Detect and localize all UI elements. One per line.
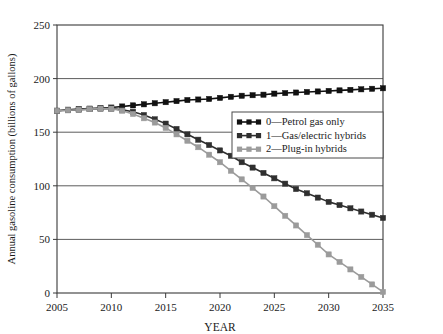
series-2-marker — [272, 204, 277, 209]
series-1-marker — [337, 203, 342, 208]
series-0-marker — [250, 93, 255, 98]
series-2-marker — [130, 111, 135, 116]
series-1-marker — [261, 170, 266, 175]
x-tick-label-2025: 2025 — [263, 301, 286, 313]
legend-label-1: 1—Gas/electric hybrids — [266, 130, 366, 141]
series-2-marker — [359, 274, 364, 279]
x-tickmarks-group — [57, 293, 383, 298]
legend-swatch-marker-1 — [246, 133, 251, 138]
series-1-marker — [272, 176, 277, 181]
series-1-marker — [315, 195, 320, 200]
series-2-marker — [87, 107, 92, 112]
series-0-marker — [141, 102, 146, 107]
series-0-marker — [315, 89, 320, 94]
series-2-marker — [76, 107, 81, 112]
x-tick-label-2015: 2015 — [155, 301, 178, 313]
series-0-marker — [348, 87, 353, 92]
x-tick-label-2030: 2030 — [318, 301, 341, 313]
series-1-marker — [250, 165, 255, 170]
series-2-marker — [228, 168, 233, 173]
x-axis-title: YEAR — [204, 321, 236, 333]
plot-frame — [57, 25, 383, 293]
series-2-marker — [65, 108, 70, 113]
series-0-marker — [370, 86, 375, 91]
series-1-marker — [283, 181, 288, 186]
series-2-marker — [380, 289, 385, 294]
x-tick-label-2010: 2010 — [100, 301, 123, 313]
series-2-marker — [370, 282, 375, 287]
series-2-marker — [54, 108, 59, 113]
series-2-marker — [315, 242, 320, 247]
y-tick-label-0: 0 — [45, 287, 51, 299]
series-0-marker — [283, 90, 288, 95]
series-2-marker — [120, 108, 125, 113]
series-0-marker — [261, 92, 266, 97]
legend-swatch-marker-0 — [237, 119, 242, 124]
series-1-marker — [348, 206, 353, 211]
chart-legend: 0—Petrol gas only1—Gas/electric hybrids2… — [232, 112, 383, 158]
gasoline-consumption-line-chart: 050100150200250 200520102015202020252030… — [0, 0, 443, 334]
x-tick-labels-group: 2005201020152020202520302035 — [46, 301, 395, 313]
y-tick-label-100: 100 — [34, 180, 51, 192]
series-2-marker — [250, 185, 255, 190]
series-1-marker — [239, 160, 244, 165]
series-0-marker — [196, 97, 201, 102]
series-1-marker — [370, 212, 375, 217]
series-0-marker — [228, 94, 233, 99]
series-0-marker — [326, 88, 331, 93]
series-0-marker — [217, 95, 222, 100]
series-2-marker — [152, 120, 157, 125]
series-2-marker — [337, 259, 342, 264]
series-1-marker — [196, 137, 201, 142]
series-2-marker — [261, 194, 266, 199]
gridlines-group — [57, 79, 383, 240]
series-1-marker — [174, 126, 179, 131]
y-tick-label-200: 200 — [34, 73, 51, 85]
legend-swatch-marker-0 — [246, 119, 251, 124]
y-tickmarks-group — [53, 25, 57, 293]
series-2-marker — [326, 252, 331, 257]
y-axis-title: Annual gasoline consumption (billions of… — [6, 53, 18, 264]
series-0-marker — [337, 88, 342, 93]
series-2-marker — [283, 213, 288, 218]
series-2-marker — [207, 152, 212, 157]
series-0-marker — [130, 103, 135, 108]
legend-swatch-marker-2 — [256, 147, 261, 152]
y-tick-label-250: 250 — [34, 19, 51, 31]
series-0-marker — [207, 96, 212, 101]
legend-swatch-marker-1 — [237, 133, 242, 138]
y-tick-label-50: 50 — [39, 233, 51, 245]
y-tick-label-150: 150 — [34, 126, 51, 138]
legend-swatch-marker-0 — [256, 119, 261, 124]
series-2-marker — [163, 125, 168, 130]
chart-container: 050100150200250 200520102015202020252030… — [0, 0, 443, 334]
x-tick-label-2020: 2020 — [209, 301, 232, 313]
series-1-marker — [207, 142, 212, 147]
series-2-marker — [196, 145, 201, 150]
series-0-marker — [152, 101, 157, 106]
legend-swatch-marker-2 — [246, 147, 251, 152]
x-tick-label-2035: 2035 — [372, 301, 395, 313]
series-1-marker — [380, 215, 385, 220]
series-1-marker — [326, 199, 331, 204]
series-0-marker — [272, 91, 277, 96]
legend-swatch-marker-2 — [237, 147, 242, 152]
series-2-marker — [239, 177, 244, 182]
series-0-marker — [359, 87, 364, 92]
series-2-marker — [304, 233, 309, 238]
legend-swatch-marker-1 — [256, 133, 261, 138]
series-0-marker — [163, 100, 168, 105]
series-2-marker — [293, 223, 298, 228]
series-1-marker — [185, 132, 190, 137]
series-0-marker — [293, 90, 298, 95]
series-2-marker — [174, 132, 179, 137]
series-1-marker — [217, 148, 222, 153]
y-tick-labels-group: 050100150200250 — [34, 19, 51, 299]
series-2-marker — [348, 267, 353, 272]
series-0-marker — [380, 86, 385, 91]
series-2-marker — [141, 116, 146, 121]
legend-label-2: 2—Plug-in hybrids — [266, 143, 347, 154]
series-1-marker — [359, 209, 364, 214]
series-0-marker — [304, 89, 309, 94]
series-1-marker — [304, 191, 309, 196]
